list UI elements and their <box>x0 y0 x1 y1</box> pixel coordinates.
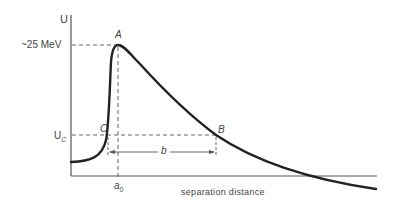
y-axis-label: U <box>60 14 68 25</box>
coulomb-level-subscript: C <box>61 136 66 143</box>
point-c-label: C <box>100 124 107 134</box>
point-a-label: A <box>115 30 122 40</box>
potential-curve <box>71 45 376 189</box>
radius-subscript: 0 <box>120 186 124 193</box>
x-axis-label: separation distance <box>181 188 265 197</box>
distance-b-label: b <box>161 146 167 156</box>
potential-energy-diagram <box>0 0 400 209</box>
arrow-left-icon <box>109 150 115 154</box>
peak-value-label: ~25 MeV <box>21 40 61 50</box>
radius-label: a0 <box>114 181 123 193</box>
point-b-label: B <box>218 125 225 135</box>
arrow-right-icon <box>209 150 215 154</box>
coulomb-level-label: UC <box>54 131 66 143</box>
